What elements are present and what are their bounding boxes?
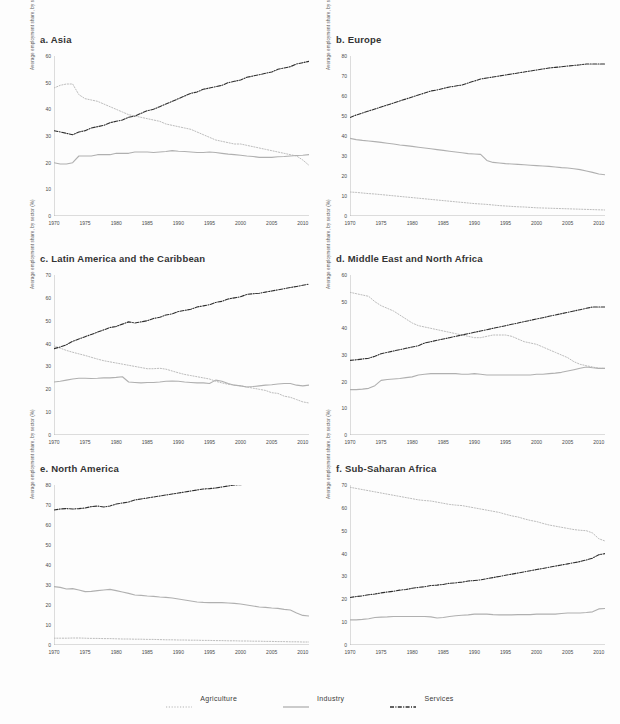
x-axis-tick: 1980 bbox=[111, 439, 122, 445]
y-axis-tick: 70 bbox=[45, 502, 51, 508]
series-line-industry bbox=[54, 377, 309, 387]
x-axis-tick: 1980 bbox=[111, 220, 122, 226]
x-axis-tick: 2010 bbox=[593, 649, 604, 655]
y-axis-label: Average employment share, by sector (%) bbox=[326, 169, 331, 289]
y-axis-tick: 30 bbox=[45, 133, 51, 139]
series-line-agriculture bbox=[54, 346, 309, 403]
y-axis-tick: 20 bbox=[341, 379, 347, 385]
y-axis-tick: 10 bbox=[341, 193, 347, 199]
x-axis-tick: 2005 bbox=[266, 220, 277, 226]
y-axis-tick: 30 bbox=[45, 582, 51, 588]
series-line-agriculture bbox=[350, 192, 605, 210]
x-axis-tick: 1970 bbox=[344, 220, 355, 226]
y-axis-tick: 20 bbox=[45, 160, 51, 166]
y-axis-tick: 60 bbox=[45, 522, 51, 528]
y-axis-tick: 60 bbox=[45, 295, 51, 301]
panel-title: d. Middle East and North Africa bbox=[336, 253, 483, 264]
plot-area: 0102030405060701970197519801985199019952… bbox=[54, 275, 309, 435]
series-line-services bbox=[54, 284, 309, 348]
series-line-services bbox=[350, 554, 605, 598]
x-axis-tick: 2000 bbox=[235, 220, 246, 226]
x-axis-tick: 1990 bbox=[469, 439, 480, 445]
y-axis-tick: 0 bbox=[48, 432, 51, 438]
x-axis-tick: 2005 bbox=[562, 220, 573, 226]
y-axis-label: Average employment share, by sector (%) bbox=[326, 379, 331, 499]
x-axis-tick: 1975 bbox=[80, 649, 91, 655]
y-axis-tick: 40 bbox=[341, 325, 347, 331]
panel-north-america: e. North America Average employment shar… bbox=[32, 463, 322, 668]
y-axis-tick: 20 bbox=[341, 173, 347, 179]
legend-item-services: Services bbox=[390, 695, 453, 702]
x-axis-tick: 1985 bbox=[438, 649, 449, 655]
series-line-industry bbox=[350, 138, 605, 174]
panel-sub-saharan-africa: f. Sub-Saharan Africa Average employment… bbox=[328, 463, 618, 668]
y-axis-tick: 50 bbox=[341, 113, 347, 119]
panel-title: b. Europe bbox=[336, 34, 382, 45]
y-axis-tick: 0 bbox=[344, 213, 347, 219]
y-axis-tick: 10 bbox=[45, 186, 51, 192]
y-axis-label: Average employment share, by sector (%) bbox=[30, 0, 35, 70]
x-axis-tick: 1980 bbox=[407, 220, 418, 226]
x-axis-tick: 1995 bbox=[500, 649, 511, 655]
chart-svg bbox=[54, 56, 309, 216]
x-axis-tick: 2010 bbox=[297, 220, 308, 226]
series-line-industry bbox=[54, 587, 309, 616]
y-axis-label: Average employment share, by sector (%) bbox=[30, 169, 35, 289]
x-axis-tick: 2010 bbox=[593, 439, 604, 445]
plot-area: 0102030405060708019701975198019851990199… bbox=[54, 485, 309, 645]
x-axis-tick: 1990 bbox=[173, 220, 184, 226]
chart-svg bbox=[350, 275, 605, 435]
x-axis-tick: 1975 bbox=[80, 220, 91, 226]
panel-asia: a. Asia Average employment share, by sec… bbox=[32, 34, 322, 239]
y-axis-tick: 70 bbox=[341, 73, 347, 79]
series-line-industry bbox=[350, 608, 605, 619]
x-axis-tick: 2000 bbox=[235, 439, 246, 445]
y-axis-tick: 20 bbox=[45, 602, 51, 608]
x-axis-tick: 2005 bbox=[562, 649, 573, 655]
y-axis-tick: 10 bbox=[45, 409, 51, 415]
x-axis-tick: 1980 bbox=[407, 649, 418, 655]
y-axis-tick: 50 bbox=[45, 318, 51, 324]
chart-svg bbox=[54, 485, 309, 645]
y-axis-tick: 50 bbox=[45, 80, 51, 86]
x-axis-tick: 2010 bbox=[593, 220, 604, 226]
legend-item-industry: Industry bbox=[283, 695, 344, 702]
chart-svg bbox=[350, 485, 605, 645]
x-axis-tick: 1970 bbox=[48, 649, 59, 655]
x-axis-tick: 1970 bbox=[344, 439, 355, 445]
x-axis-tick: 2000 bbox=[531, 220, 542, 226]
legend-label: Services bbox=[424, 695, 453, 702]
x-axis-tick: 1995 bbox=[204, 439, 215, 445]
series-line-agriculture bbox=[54, 84, 309, 165]
panel-title: e. North America bbox=[40, 463, 119, 474]
x-axis-tick: 2000 bbox=[531, 649, 542, 655]
x-axis-tick: 1975 bbox=[376, 439, 387, 445]
y-axis-tick: 20 bbox=[341, 596, 347, 602]
y-axis-tick: 10 bbox=[341, 405, 347, 411]
y-axis-tick: 40 bbox=[341, 133, 347, 139]
y-axis-label: Average employment share, by sector (%) bbox=[30, 379, 35, 499]
x-axis-tick: 2005 bbox=[562, 439, 573, 445]
panel-europe: b. Europe Average employment share, by s… bbox=[328, 34, 618, 239]
panel-middle-east-north-africa: d. Middle East and North Africa Average … bbox=[328, 253, 618, 458]
series-line-services bbox=[350, 64, 605, 118]
y-axis-label: Average employment share, by sector (%) bbox=[326, 0, 331, 70]
y-axis-tick: 30 bbox=[341, 573, 347, 579]
x-axis-tick: 1975 bbox=[376, 649, 387, 655]
plot-area: 0102030405060197019751980198519901995200… bbox=[54, 56, 309, 216]
series-line-services bbox=[350, 307, 605, 360]
x-axis-tick: 1995 bbox=[500, 439, 511, 445]
chart-svg bbox=[54, 275, 309, 435]
x-axis-tick: 2000 bbox=[531, 439, 542, 445]
x-axis-tick: 2000 bbox=[235, 649, 246, 655]
y-axis-tick: 60 bbox=[341, 505, 347, 511]
legend-swatch-industry bbox=[283, 696, 309, 702]
panel-title: f. Sub-Saharan Africa bbox=[336, 463, 436, 474]
x-axis-tick: 1990 bbox=[173, 439, 184, 445]
employment-share-figure: a. Asia Average employment share, by sec… bbox=[0, 0, 620, 724]
legend-swatch-services bbox=[390, 696, 416, 702]
series-line-agriculture bbox=[350, 292, 605, 368]
chart-svg bbox=[350, 56, 605, 216]
series-line-agriculture bbox=[54, 638, 309, 642]
panel-title: c. Latin America and the Caribbean bbox=[40, 253, 205, 264]
